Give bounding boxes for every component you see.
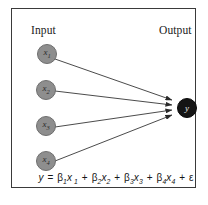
equation-plus-1: +: [78, 172, 92, 183]
edge-x4-y: [55, 115, 172, 161]
equation-equals: =: [44, 172, 58, 183]
input-node-x3-label: x3: [42, 120, 49, 131]
input-node-x4-label: x4: [42, 155, 49, 166]
equation-term-3: β3x3: [124, 172, 143, 183]
input-node-x1[interactable]: x1: [37, 44, 57, 64]
equation-term-1: β1x 1: [57, 172, 78, 183]
edge-x1-y: [55, 59, 172, 100]
edge-x3-y: [55, 110, 172, 127]
equation-plus-4: +: [175, 172, 189, 183]
input-node-x2[interactable]: x2: [36, 80, 56, 100]
input-node-x3[interactable]: x3: [36, 116, 56, 136]
diagram-root: Input Output x1 x2 x3: [0, 0, 208, 205]
figure-frame: Input Output x1 x2 x3: [11, 8, 196, 188]
regression-equation: y = β1x 1 + β2x2 + β3x3 + β4x4 + ε: [12, 172, 208, 185]
equation-plus-3: +: [143, 172, 157, 183]
input-node-x4[interactable]: x4: [36, 151, 56, 171]
equation-error-term: ε: [189, 172, 194, 183]
equation-term-4: β4x4: [157, 172, 176, 183]
edge-x2-y: [55, 91, 172, 105]
equation-term-2: β2x2: [92, 172, 111, 183]
equation-plus-2: +: [110, 172, 124, 183]
input-node-x1-label: x1: [43, 48, 50, 59]
output-node-y-label: y: [185, 104, 189, 113]
input-node-x2-label: x2: [42, 84, 49, 95]
equation-lhs: y: [38, 172, 43, 183]
output-node-y[interactable]: y: [177, 98, 197, 118]
